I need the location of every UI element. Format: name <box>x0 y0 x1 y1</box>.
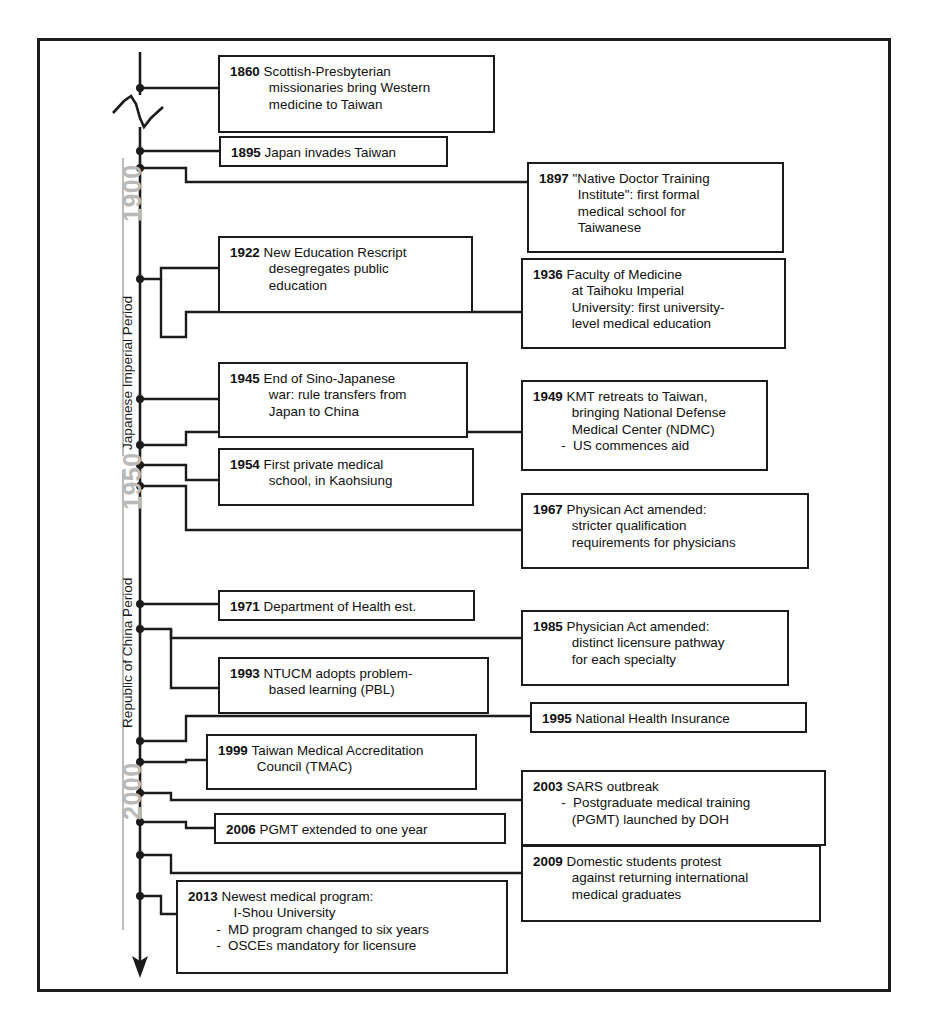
event-line: (PGMT) launched by DOH <box>533 812 815 828</box>
event-line: 1954 First private medical <box>230 457 463 473</box>
event-line: Council (TMAC) <box>218 759 466 775</box>
event-box-2006[interactable]: 2006 PGMT extended to one year <box>214 813 506 844</box>
event-box-1971[interactable]: 1971 Department of Health est. <box>218 590 475 621</box>
event-box-1985[interactable]: 1985 Physician Act amended:distinct lice… <box>521 610 789 686</box>
period-label-republic-of-china: Republic of China Period <box>120 578 135 728</box>
event-year: 2006 <box>226 822 260 837</box>
event-line: bringing National Defense <box>533 405 757 421</box>
event-line: - Postgraduate medical training <box>533 795 815 811</box>
event-line: level medical education <box>533 316 775 332</box>
event-box-1922[interactable]: 1922 New Education Rescriptdesegregates … <box>218 236 473 313</box>
period-label-japanese-imperial: Japanese Imperial Period <box>120 296 135 450</box>
event-line: - MD program changed to six years <box>188 922 497 938</box>
event-line: at Taihoku Imperial <box>533 283 775 299</box>
event-year: 1936 <box>533 267 567 282</box>
event-box-2013[interactable]: 2013 Newest medical program:I-Shou Unive… <box>176 880 508 974</box>
event-line: based learning (PBL) <box>230 682 478 698</box>
event-line: missionaries bring Western <box>230 80 484 96</box>
event-year: 1993 <box>230 666 264 681</box>
event-year: 1967 <box>533 502 567 517</box>
event-year: 1954 <box>230 457 264 472</box>
event-line: 2013 Newest medical program: <box>188 889 497 905</box>
event-year: 1922 <box>230 245 264 260</box>
event-line: - OSCEs mandatory for licensure <box>188 938 497 954</box>
timeline-figure: 1900 1950 2000 Japanese Imperial Period … <box>0 0 929 1025</box>
event-year: 1860 <box>230 64 264 79</box>
event-line: war: rule transfers from <box>230 387 457 403</box>
event-line: 1936 Faculty of Medicine <box>533 267 775 283</box>
event-box-1967[interactable]: 1967 Physican Act amended:stricter quali… <box>521 493 809 569</box>
event-box-1895[interactable]: 1895 Japan invades Taiwan <box>219 136 448 167</box>
event-line: 1897 "Native Doctor Training <box>539 171 773 187</box>
event-line: for each specialty <box>533 652 778 668</box>
event-line: 1860 Scottish-Presbyterian <box>230 64 484 80</box>
event-line: medical school for <box>539 204 773 220</box>
event-line: University: first university- <box>533 300 775 316</box>
event-year: 1999 <box>218 743 252 758</box>
event-line: medicine to Taiwan <box>230 97 484 113</box>
event-box-2009[interactable]: 2009 Domestic students protestagainst re… <box>521 845 821 922</box>
event-line: school, in Kaohsiung <box>230 473 463 489</box>
event-line: - US commences aid <box>533 438 757 454</box>
event-year: 1971 <box>230 599 264 614</box>
event-line: 2006 PGMT extended to one year <box>226 822 495 838</box>
event-line: Medical Center (NDMC) <box>533 422 757 438</box>
event-year: 1895 <box>231 145 265 160</box>
event-line: I-Shou University <box>188 905 497 921</box>
event-box-1949[interactable]: 1949 KMT retreats to Taiwan,bringing Nat… <box>521 380 768 471</box>
event-line: 1949 KMT retreats to Taiwan, <box>533 389 757 405</box>
event-line: medical graduates <box>533 887 810 903</box>
decade-label-1900: 1900 <box>118 164 147 222</box>
event-box-1995[interactable]: 1995 National Health Insurance <box>530 702 807 733</box>
event-line: education <box>230 278 462 294</box>
event-line: 2003 SARS outbreak <box>533 779 815 795</box>
event-line: 1895 Japan invades Taiwan <box>231 145 437 161</box>
decade-label-1950: 1950 <box>118 452 147 510</box>
event-line: desegregates public <box>230 261 462 277</box>
event-box-1860[interactable]: 1860 Scottish-Presbyterianmissionaries b… <box>218 55 495 133</box>
event-line: stricter qualification <box>533 518 798 534</box>
event-line: Japan to China <box>230 404 457 420</box>
event-line: 2009 Domestic students protest <box>533 854 810 870</box>
decade-label-2000: 2000 <box>118 762 147 820</box>
event-year: 2003 <box>533 779 567 794</box>
event-line: against returning international <box>533 870 810 886</box>
event-year: 1985 <box>533 619 567 634</box>
event-year: 1949 <box>533 389 567 404</box>
event-line: 1967 Physican Act amended: <box>533 502 798 518</box>
event-line: Taiwanese <box>539 220 773 236</box>
event-box-2003[interactable]: 2003 SARS outbreak- Postgraduate medical… <box>521 770 826 846</box>
event-line: 1971 Department of Health est. <box>230 599 464 615</box>
event-line: 1985 Physician Act amended: <box>533 619 778 635</box>
event-line: 1922 New Education Rescript <box>230 245 462 261</box>
event-year: 2013 <box>188 889 222 904</box>
event-line: Institute": first formal <box>539 187 773 203</box>
event-year: 1897 <box>539 171 573 186</box>
event-line: 1995 National Health Insurance <box>542 711 796 727</box>
event-box-1999[interactable]: 1999 Taiwan Medical AccreditationCouncil… <box>206 734 477 790</box>
event-box-1993[interactable]: 1993 NTUCM adopts problem-based learning… <box>218 657 489 714</box>
event-line: distinct licensure pathway <box>533 635 778 651</box>
event-year: 2009 <box>533 854 567 869</box>
event-box-1945[interactable]: 1945 End of Sino-Japanesewar: rule trans… <box>218 362 468 438</box>
event-line: requirements for physicians <box>533 535 798 551</box>
event-year: 1945 <box>230 371 264 386</box>
event-box-1897[interactable]: 1897 "Native Doctor TrainingInstitute": … <box>527 162 784 253</box>
event-year: 1995 <box>542 711 576 726</box>
event-box-1954[interactable]: 1954 First private medicalschool, in Kao… <box>218 448 474 506</box>
event-line: 1945 End of Sino-Japanese <box>230 371 457 387</box>
event-line: 1999 Taiwan Medical Accreditation <box>218 743 466 759</box>
event-line: 1993 NTUCM adopts problem- <box>230 666 478 682</box>
event-box-1936[interactable]: 1936 Faculty of Medicineat Taihoku Imper… <box>521 258 786 349</box>
